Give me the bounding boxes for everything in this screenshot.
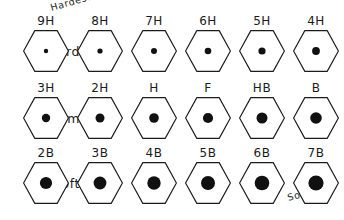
- grade-label: B: [290, 81, 342, 95]
- pencil-cell: H: [128, 81, 180, 143]
- grade-label: 6B: [236, 146, 288, 160]
- hexagon-icon: [292, 29, 340, 73]
- grade-label: 2B: [20, 146, 72, 160]
- hexagon-icon: [76, 161, 124, 205]
- grade-label: F: [182, 81, 234, 95]
- pencil-cell: 3H: [20, 81, 72, 143]
- pencil-cell: 7B: [290, 146, 342, 208]
- hexagon-icon: [238, 161, 286, 205]
- pencil-cell: HB: [236, 81, 288, 143]
- hexagon-icon: [292, 161, 340, 205]
- hexagon-icon: [130, 161, 178, 205]
- hexagon-icon: [184, 29, 232, 73]
- pencil-cell: 5H: [236, 14, 288, 76]
- row-hard: Hard 9H8H7H6H5H4H: [0, 14, 344, 80]
- hexagon-icon: [76, 29, 124, 73]
- pencil-cell: 8H: [74, 14, 126, 76]
- hexagon-icon: [238, 29, 286, 73]
- hexagon-icon: [130, 29, 178, 73]
- hexagon-icon: [184, 161, 232, 205]
- grade-label: 7B: [290, 146, 342, 160]
- hexagon-icon: [130, 96, 178, 140]
- grade-label: 4H: [290, 14, 342, 28]
- pencil-cell: 9H: [20, 14, 72, 76]
- grade-label: 4B: [128, 146, 180, 160]
- pencil-cell: F: [182, 81, 234, 143]
- hexagon-icon: [292, 96, 340, 140]
- grade-label: 5H: [236, 14, 288, 28]
- grade-label: HB: [236, 81, 288, 95]
- pencil-cell: 3B: [74, 146, 126, 208]
- grade-label: 9H: [20, 14, 72, 28]
- grade-label: 8H: [74, 14, 126, 28]
- row-soft: Soft 2B3B4B5B6B7B: [0, 146, 344, 212]
- hexagon-icon: [22, 29, 70, 73]
- hexagon-icon: [22, 161, 70, 205]
- pencil-hardness-chart: Hardest Softest Hard 9H8H7H6H5H4H Medium…: [0, 0, 344, 220]
- pencil-cell: 6H: [182, 14, 234, 76]
- hexagon-icon: [184, 96, 232, 140]
- grade-label: 6H: [182, 14, 234, 28]
- grade-label: 2H: [74, 81, 126, 95]
- hexagon-icon: [76, 96, 124, 140]
- grade-label: 7H: [128, 14, 180, 28]
- grade-label: 3H: [20, 81, 72, 95]
- row-medium: Medium 3H2HHFHBB: [0, 81, 344, 147]
- hardest-annotation: Hardest: [49, 0, 93, 13]
- grade-label: 3B: [74, 146, 126, 160]
- pencil-cell: 4H: [290, 14, 342, 76]
- hexagon-icon: [238, 96, 286, 140]
- grade-label: H: [128, 81, 180, 95]
- pencil-cell: 4B: [128, 146, 180, 208]
- pencil-cell: 7H: [128, 14, 180, 76]
- grade-label: 5B: [182, 146, 234, 160]
- pencil-cell: 6B: [236, 146, 288, 208]
- pencil-cell: 2H: [74, 81, 126, 143]
- pencil-cell: B: [290, 81, 342, 143]
- pencil-cell: 5B: [182, 146, 234, 208]
- hexagon-icon: [22, 96, 70, 140]
- pencil-cell: 2B: [20, 146, 72, 208]
